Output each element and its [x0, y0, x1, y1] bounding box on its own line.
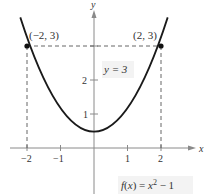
function-label: f(x) = x2 − 1 [121, 178, 174, 192]
x-tick-label-m1: −1 [53, 153, 64, 164]
function-label-rest: − 1 [157, 179, 174, 191]
x-axis-label: x [198, 143, 204, 154]
y-axis-arrow-icon [92, 10, 97, 18]
y-tick-label-2: 2 [82, 75, 87, 86]
parabola-chart: (−2, 3) (2, 3) y = 3 y x −2 −1 1 2 1 2 f… [0, 0, 211, 194]
point-left-label: (−2, 3) [29, 29, 59, 42]
x-axis-arrow-icon [188, 146, 196, 151]
y-tick-label-1: 1 [83, 109, 88, 120]
point-left [24, 43, 29, 48]
function-label-eq: = [136, 179, 148, 191]
x-tick-label-2: 2 [158, 153, 163, 164]
x-tick-label-1: 1 [125, 153, 130, 164]
y-axis-label: y [90, 0, 96, 10]
point-right [158, 43, 163, 48]
x-tick-label-m2: −2 [21, 153, 32, 164]
point-right-label: (2, 3) [133, 29, 157, 42]
hline-label: y = 3 [103, 63, 128, 75]
